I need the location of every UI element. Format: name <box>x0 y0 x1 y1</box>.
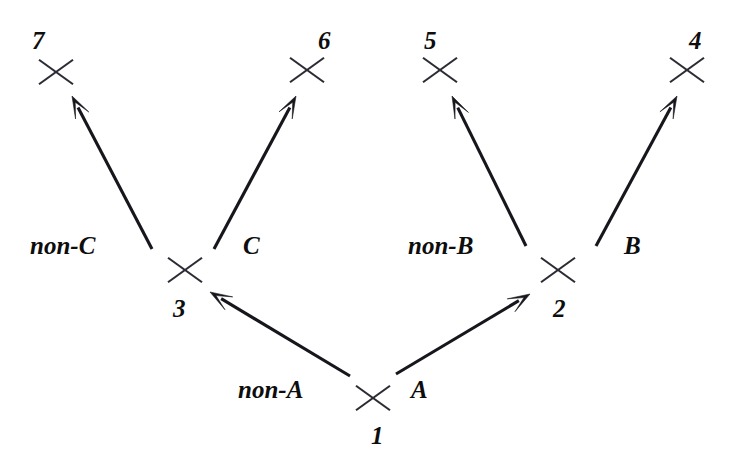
edge-non-c <box>72 96 152 249</box>
node-4-number: 4 <box>689 28 702 53</box>
node-6 <box>290 58 324 82</box>
edge-c <box>214 96 296 249</box>
edge-non-b-label: non-B <box>408 233 473 258</box>
node-4 <box>670 58 704 82</box>
node-3-number: 3 <box>173 296 186 321</box>
node-2 <box>541 258 575 282</box>
node-1-number: 1 <box>371 423 384 448</box>
edge-b <box>596 96 677 246</box>
node-6-number: 6 <box>318 28 331 53</box>
edge-a-label: A <box>411 377 428 402</box>
diagram-canvas: non-AAnon-CCnon-BB1234567 <box>0 0 740 472</box>
edge-c-label: C <box>243 233 260 258</box>
edge-non-c-label: non-C <box>30 233 95 258</box>
edge-non-b <box>452 96 526 246</box>
edge-layer <box>72 96 677 376</box>
node-7 <box>39 60 73 84</box>
node-3 <box>168 258 202 282</box>
edge-a <box>396 294 530 374</box>
node-5 <box>423 58 457 82</box>
node-2-number: 2 <box>553 296 566 321</box>
node-5-number: 5 <box>424 28 437 53</box>
edge-non-a <box>210 292 350 376</box>
node-1 <box>356 386 390 410</box>
node-7-number: 7 <box>32 28 45 53</box>
node-layer <box>39 58 704 410</box>
edge-b-label: B <box>624 233 641 258</box>
edge-non-a-label: non-A <box>238 377 303 402</box>
